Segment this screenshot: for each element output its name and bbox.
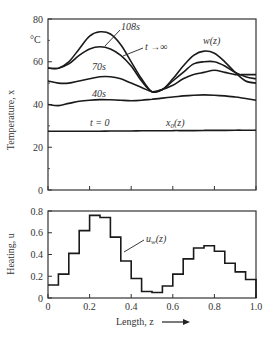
- temperature-unit-label: °C: [30, 34, 41, 45]
- annotation-t-infinity: t →∞: [145, 41, 167, 52]
- temperature-curve: [48, 95, 256, 106]
- temperature-curve: [48, 70, 256, 91]
- x-axis-label: Length, z: [116, 316, 154, 327]
- y-tick-label: 0.2: [31, 271, 44, 282]
- annotation-40s: 40s: [92, 88, 106, 99]
- heating-plot: 00.20.40.60.8 00.20.40.60.81.0 Heating, …: [5, 206, 262, 328]
- arrow-uw: [124, 240, 144, 252]
- heating-y-ticks: 00.20.40.60.8: [31, 206, 53, 304]
- annotation-w: w(z): [203, 35, 221, 47]
- temperature-curve: [48, 130, 256, 131]
- annotation-108s: 108s: [121, 21, 140, 32]
- x-axis-arrow-icon: [162, 319, 190, 325]
- y-tick-label: 20: [33, 142, 43, 153]
- annotation-uw: uw(z): [146, 233, 167, 246]
- annotation-70s: 70s: [92, 61, 106, 72]
- heating-step-curve: [48, 215, 256, 298]
- x-tick-label: 0.6: [167, 301, 180, 312]
- y-tick-label: 0.8: [31, 206, 44, 217]
- annotation-x0: x0(z): [165, 117, 185, 130]
- x-tick-label: 0.8: [208, 301, 221, 312]
- x-tick-label: 0: [46, 301, 51, 312]
- y-tick-label: 0.4: [31, 249, 44, 260]
- y-tick-label: 60: [33, 56, 43, 67]
- temperature-x-ticks: [48, 186, 256, 190]
- y-tick-label: 0: [38, 185, 43, 196]
- x-tick-label: 0.2: [83, 301, 96, 312]
- x-tick-label: 0.4: [125, 301, 138, 312]
- temperature-plot: 020406080 °C Temperature, x 108s t →∞ w(…: [5, 14, 256, 196]
- y-tick-label: 40: [33, 99, 43, 110]
- y-tick-label: 80: [33, 14, 43, 25]
- x-tick-label: 1.0: [250, 301, 263, 312]
- y-tick-label: 0.6: [31, 227, 44, 238]
- annotation-t0: t = 0: [90, 117, 110, 128]
- figure: 020406080 °C Temperature, x 108s t →∞ w(…: [0, 0, 273, 345]
- heating-x-ticks: 00.20.40.60.81.0: [46, 294, 263, 312]
- temperature-y-axis-label: Temperature, x: [5, 90, 16, 150]
- y-tick-label: 0: [38, 293, 43, 304]
- heating-y-axis-label: Heating, u: [5, 233, 16, 275]
- temperature-curve: [48, 47, 256, 92]
